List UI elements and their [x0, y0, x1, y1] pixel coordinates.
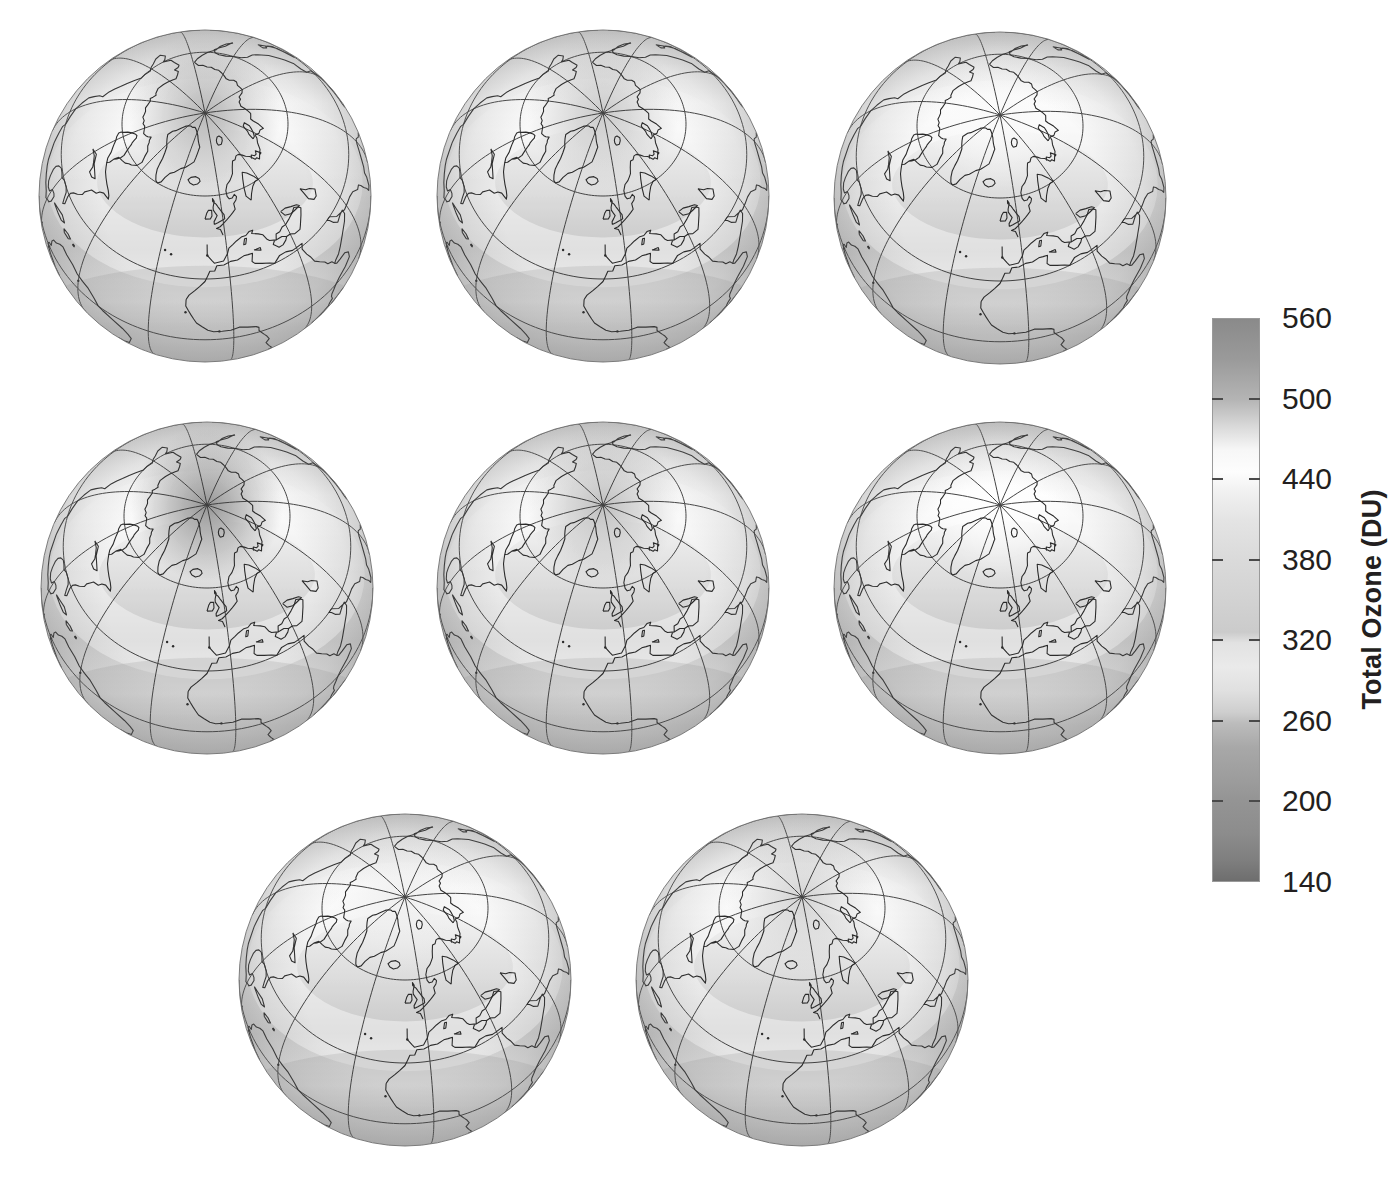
colorbar-gradient: [1212, 318, 1260, 882]
colorbar-tick-label: 500: [1282, 384, 1332, 414]
colorbar-axis-title: Total Ozone (DU): [1357, 480, 1388, 720]
colorbar-tick-500-left: [1212, 398, 1223, 400]
colorbar-tick-label: 140: [1282, 867, 1332, 897]
colorbar-tick-500-right: [1249, 398, 1260, 400]
colorbar-tick-320-left: [1212, 639, 1223, 641]
colorbar-tick-380-right: [1249, 559, 1260, 561]
colorbar-tick-320-right: [1249, 639, 1260, 641]
colorbar-tick-label: 200: [1282, 786, 1332, 816]
colorbar-tick-380-left: [1212, 559, 1223, 561]
colorbar-tick-200-left: [1212, 800, 1223, 802]
colorbar-tick-200-right: [1249, 800, 1260, 802]
colorbar: Total Ozone (DU) 56050044038032026020014…: [0, 0, 1400, 1189]
colorbar-tick-260-left: [1212, 720, 1223, 722]
colorbar-tick-440-left: [1212, 478, 1223, 480]
colorbar-tick-260-right: [1249, 720, 1260, 722]
colorbar-tick-label: 320: [1282, 625, 1332, 655]
colorbar-tick-label: 560: [1282, 303, 1332, 333]
colorbar-tick-440-right: [1249, 478, 1260, 480]
ozone-globe-figure: Total Ozone (DU) 56050044038032026020014…: [0, 0, 1400, 1189]
colorbar-tick-label: 440: [1282, 464, 1332, 494]
colorbar-tick-label: 380: [1282, 545, 1332, 575]
colorbar-tick-label: 260: [1282, 706, 1332, 736]
